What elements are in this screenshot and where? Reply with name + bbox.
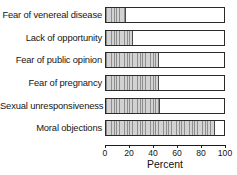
axis-tick-label: 40 xyxy=(148,148,158,158)
category-label: Fear of public opinion xyxy=(0,55,105,65)
bar-fill xyxy=(106,31,133,45)
bar-fill xyxy=(106,121,215,135)
bar-track xyxy=(105,120,225,136)
x-axis-title: Percent xyxy=(147,159,183,171)
bar-row: Fear of pregnancy xyxy=(0,72,237,95)
axis-tick-label: 0 xyxy=(103,148,108,158)
bar-track xyxy=(105,7,225,23)
bar-row: Sexual unresponsiveness xyxy=(0,94,237,117)
bar-rows: Fear of venereal diseaseLack of opportun… xyxy=(0,4,237,140)
x-axis: 020406080100 Percent xyxy=(105,145,227,175)
bar-track xyxy=(105,98,225,114)
bar-row: Moral objections xyxy=(0,117,237,140)
axis-tick-label: 60 xyxy=(172,148,182,158)
bar-track xyxy=(105,75,225,91)
category-label: Fear of venereal disease xyxy=(0,10,105,20)
category-label: Moral objections xyxy=(0,123,105,133)
bar-fill xyxy=(106,53,159,67)
bar-track xyxy=(105,52,225,68)
bar-row: Fear of public opinion xyxy=(0,49,237,72)
category-label: Fear of pregnancy xyxy=(0,78,105,88)
axis-tick-label: 80 xyxy=(196,148,206,158)
axis-tick-label: 20 xyxy=(124,148,134,158)
bar-fill xyxy=(106,76,159,90)
category-label: Lack of opportunity xyxy=(0,33,105,43)
bar-track xyxy=(105,30,225,46)
bar-fill xyxy=(106,99,160,113)
horizontal-bar-chart: Fear of venereal diseaseLack of opportun… xyxy=(0,0,237,175)
category-label: Sexual unresponsiveness xyxy=(0,101,105,111)
bar-fill xyxy=(106,8,126,22)
axis-line xyxy=(105,145,225,146)
bar-row: Lack of opportunity xyxy=(0,27,237,50)
bar-row: Fear of venereal disease xyxy=(0,4,237,27)
axis-tick-label: 100 xyxy=(218,148,232,158)
